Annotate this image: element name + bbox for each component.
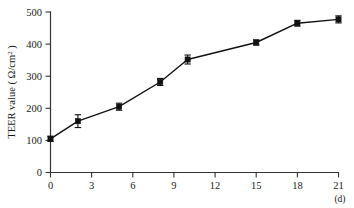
x-tick-label: 0 — [48, 180, 53, 191]
y-axis-tick-labels: 0 100 200 300 400 500 — [26, 7, 42, 179]
error-bars-group — [47, 16, 341, 142]
x-tick-label: 6 — [130, 180, 135, 191]
data-point-marker — [295, 21, 300, 26]
data-markers-group — [48, 17, 341, 142]
data-point-marker — [336, 17, 341, 22]
data-point-marker — [254, 40, 259, 45]
y-axis-title: TEER value ( Ω/cm2 ) — [6, 45, 19, 139]
x-tick-label: 15 — [251, 180, 262, 191]
svg-text:TEER value ( Ω/cm2 ): TEER value ( Ω/cm2 ) — [6, 45, 19, 139]
y-tick-label: 0 — [37, 167, 42, 178]
y-axis-title-tail: ) — [6, 45, 18, 52]
x-axis-tick-labels: 0 3 6 9 12 15 18 21 — [48, 180, 344, 191]
x-tick-label: 21 — [333, 180, 344, 191]
y-tick-label: 400 — [26, 39, 42, 50]
y-tick-label: 500 — [26, 7, 42, 18]
chart-figure: 0 100 200 300 400 500 0 3 6 9 12 15 18 — [0, 0, 354, 208]
y-axis-ticks — [46, 12, 51, 173]
x-axis-unit-label: (d) — [334, 194, 345, 205]
y-tick-label: 100 — [26, 135, 42, 146]
y-tick-label: 200 — [26, 103, 42, 114]
data-point-marker — [158, 79, 163, 84]
x-axis-ticks — [51, 173, 339, 178]
y-axis-title-text: TEER value ( Ω/cm — [6, 55, 18, 139]
data-point-marker — [116, 104, 121, 109]
x-tick-label: 3 — [89, 180, 94, 191]
data-point-marker — [75, 119, 80, 124]
x-tick-label: 18 — [292, 180, 303, 191]
x-tick-label: 12 — [210, 180, 221, 191]
chart-svg: 0 100 200 300 400 500 0 3 6 9 12 15 18 — [0, 0, 354, 208]
x-tick-label: 9 — [171, 180, 176, 191]
y-tick-label: 300 — [26, 71, 42, 82]
series-line-teer — [51, 19, 339, 138]
data-point-marker — [48, 136, 53, 141]
data-point-marker — [185, 57, 190, 62]
